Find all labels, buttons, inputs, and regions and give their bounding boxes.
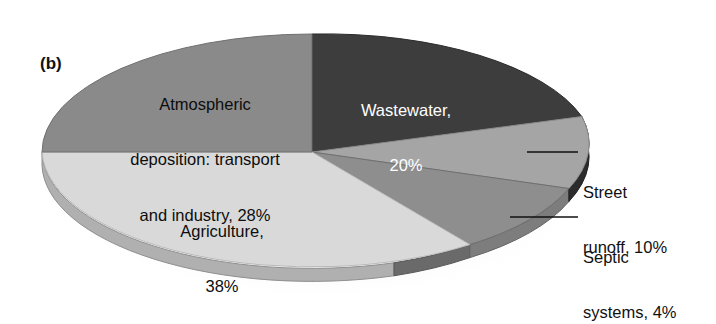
slice-label-line2: 20% [336, 156, 476, 174]
slice-label-wastewater: Wastewater, 20% [336, 64, 476, 212]
slice-label-septic-systems: Septic systems, 4% [583, 211, 716, 324]
panel-label: (b) [40, 54, 62, 73]
slice-label-line2: 38% [142, 277, 302, 295]
slice-label-line1: Agriculture, [142, 222, 302, 240]
slice-label-agriculture: Agriculture, 38% [142, 185, 302, 324]
slice-label-line2: systems, 4% [583, 303, 716, 321]
slice-label-line2: deposition: transport [96, 150, 314, 168]
figure-panel: (b) Atmospheric deposition: transport an… [0, 0, 716, 324]
slice-label-line1: Septic [583, 248, 716, 266]
slice-label-line1: Wastewater, [336, 101, 476, 119]
slice-label-line1: Atmospheric [96, 95, 314, 113]
slice-label-line1: Street [583, 183, 715, 201]
